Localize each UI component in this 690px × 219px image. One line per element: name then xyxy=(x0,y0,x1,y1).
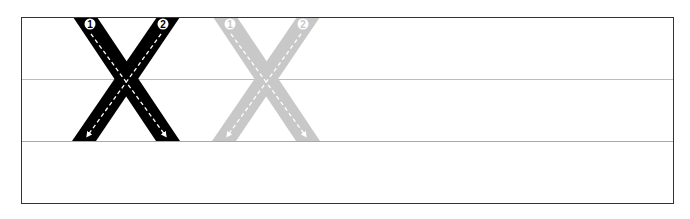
worksheet-canvas: 1 2 1 2 xyxy=(0,0,690,219)
trace-stroke-1-order-badge: 1 xyxy=(225,19,236,30)
stroke-1-order-number: 1 xyxy=(87,19,93,30)
trace-stroke-2-order-number: 2 xyxy=(300,19,306,30)
stroke-1-order-badge: 1 xyxy=(85,19,96,30)
stroke-2-order-badge: 2 xyxy=(158,19,169,30)
trace-stroke-1-order-number: 1 xyxy=(227,19,233,30)
handwriting-worksheet: 1 2 1 2 xyxy=(0,0,690,219)
stroke-2-order-number: 2 xyxy=(160,19,166,30)
trace-stroke-2-order-badge: 2 xyxy=(298,19,309,30)
blank-practice-area[interactable] xyxy=(330,18,673,203)
